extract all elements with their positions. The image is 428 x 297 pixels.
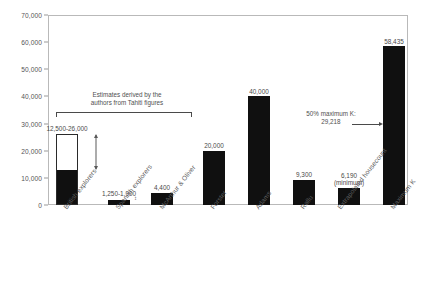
bar-value-label: 9,300: [296, 171, 312, 178]
y-axis: 0 10,000 20,000 30,000 40,000 50,000 60,…: [0, 15, 48, 205]
arrow-head-up-icon: [94, 134, 98, 138]
y-tick-label: 70,000: [21, 12, 42, 19]
annotation-line-2: authors from Tahiti figures: [91, 99, 163, 106]
bar-value-label: 4,400: [154, 184, 170, 191]
bar-value-label: 40,000: [249, 88, 269, 95]
annotation-leader-arrow-icon: [379, 122, 383, 126]
annotation-leader-line: [352, 124, 380, 125]
bar-maximum-k[interactable]: 58,435: [383, 15, 405, 205]
y-tick-label: 20,000: [21, 147, 42, 154]
bar-spanish-explorers[interactable]: 1,250-1,900: [108, 15, 130, 205]
bar-forster[interactable]: 20,000: [203, 15, 225, 205]
bar-value-label: 20,000: [204, 142, 224, 149]
annotation-line-1: 50% maximum K:: [306, 110, 355, 117]
annotation-line-2: 29,218: [321, 118, 340, 125]
y-tick-label: 30,000: [21, 120, 42, 127]
bar-mcarthur-oliver[interactable]: 4,400: [151, 15, 173, 205]
population-estimates-bar-chart: 0 10,000 20,000 30,000 40,000 50,000 60,…: [0, 0, 428, 297]
y-tick-label: 60,000: [21, 39, 42, 46]
x-axis-labels: British explorers Spanish explorers McAr…: [48, 206, 408, 297]
bar-value-label: 58,435: [384, 38, 404, 45]
arrow-shaft: [95, 135, 96, 169]
bar-value-label: 12,500-26,000: [46, 125, 87, 132]
annotation-tahiti-note: Estimates derived by the authors from Ta…: [62, 91, 192, 107]
range-indicator-arrow: [92, 135, 99, 169]
y-tick-label: 0: [38, 202, 42, 209]
bar-adams[interactable]: 40,000: [248, 15, 270, 205]
small-range-arrow-icon: ↕: [134, 195, 137, 201]
y-tick-label: 10,000: [21, 174, 42, 181]
y-tick-label: 50,000: [21, 66, 42, 73]
annotation-line-1: Estimates derived by the: [93, 91, 162, 98]
bar-rect: [383, 46, 405, 205]
bar-british-explorers[interactable]: 12,500-26,000: [56, 15, 78, 205]
bar-value-text: 6,190: [341, 172, 357, 179]
y-tick-label: 40,000: [21, 93, 42, 100]
annotation-brace: [56, 112, 192, 117]
